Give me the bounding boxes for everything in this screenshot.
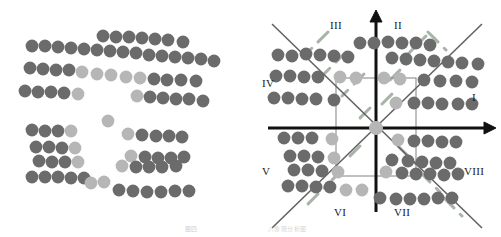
data-dot <box>144 91 157 104</box>
data-dot <box>450 136 463 149</box>
data-dot <box>161 74 174 87</box>
data-dot <box>72 88 85 101</box>
data-dot <box>284 70 297 83</box>
data-dot <box>134 72 147 85</box>
data-dot <box>396 167 409 180</box>
data-dot <box>183 185 196 198</box>
data-dot <box>143 49 156 62</box>
figure-canvas: IIIIIIIVVVIVIIVIII 图四 八象限分析图 <box>0 0 501 237</box>
data-dot <box>472 58 485 71</box>
data-dot <box>130 47 143 60</box>
data-dot <box>356 184 369 197</box>
data-dot <box>102 115 115 128</box>
data-dot <box>150 130 163 143</box>
data-dot <box>284 150 297 163</box>
data-dot <box>328 152 341 165</box>
data-dot <box>65 172 78 185</box>
data-dot <box>69 142 82 155</box>
data-dot <box>105 69 118 82</box>
data-dot <box>292 132 305 145</box>
data-dot <box>123 31 136 44</box>
data-dot <box>298 150 311 163</box>
data-dot <box>466 76 479 89</box>
data-dot <box>91 68 104 81</box>
data-dot <box>424 168 437 181</box>
data-dot <box>50 64 63 77</box>
data-dot <box>65 42 78 55</box>
data-dot <box>316 165 329 178</box>
data-dot <box>410 168 423 181</box>
y-axis-arrow <box>370 10 382 22</box>
data-dot <box>177 36 190 49</box>
data-dot <box>156 161 169 174</box>
data-dot <box>143 161 156 174</box>
data-dot <box>324 181 337 194</box>
data-dot <box>374 192 387 205</box>
data-dot <box>24 62 37 75</box>
data-dot <box>39 171 52 184</box>
data-dot <box>131 90 144 103</box>
data-dot <box>195 53 208 66</box>
data-dot <box>288 164 301 177</box>
data-dot <box>410 37 423 50</box>
data-dot <box>386 154 399 167</box>
data-dot <box>26 171 39 184</box>
data-dot <box>183 93 196 106</box>
data-dot <box>390 193 403 206</box>
x-axis-arrow <box>484 122 496 134</box>
data-dot <box>175 74 188 87</box>
data-dot <box>26 40 39 53</box>
data-dot <box>170 93 183 106</box>
data-dot <box>197 95 210 108</box>
octant-label-iii: III <box>330 20 342 31</box>
data-dot <box>156 50 169 63</box>
data-dot <box>282 92 295 105</box>
data-dot <box>76 66 89 79</box>
data-dot <box>436 98 449 111</box>
data-dot <box>416 156 429 169</box>
data-dot <box>328 50 341 63</box>
data-dot <box>334 71 347 84</box>
data-dot <box>306 132 319 145</box>
data-dot <box>436 136 449 149</box>
data-dot <box>30 141 43 154</box>
data-dot <box>386 52 399 65</box>
data-dot <box>378 72 391 85</box>
data-dot <box>110 31 123 44</box>
data-dot <box>272 49 285 62</box>
data-dot <box>117 46 130 59</box>
data-dot <box>127 185 140 198</box>
data-dot <box>120 71 133 84</box>
data-dot <box>368 37 381 50</box>
octant-label-ii: II <box>394 20 402 31</box>
data-dot <box>282 180 295 193</box>
data-dot <box>296 180 309 193</box>
data-dot <box>314 49 327 62</box>
data-dot <box>390 97 403 110</box>
data-dot <box>59 156 72 169</box>
data-dot <box>149 33 162 46</box>
data-dot <box>300 48 313 61</box>
data-dot <box>310 93 323 106</box>
data-dot <box>122 128 135 141</box>
data-dot <box>444 157 457 170</box>
data-dot <box>136 32 149 45</box>
octant-diagram-layer <box>250 0 501 237</box>
data-dot <box>392 134 405 147</box>
data-dot <box>328 94 341 107</box>
data-dot <box>428 55 441 68</box>
data-dot <box>350 72 363 85</box>
data-dot <box>19 85 32 98</box>
data-dot <box>354 37 367 50</box>
data-dot <box>169 185 182 198</box>
data-dot <box>442 56 455 69</box>
data-dot <box>446 192 459 205</box>
data-dot <box>408 135 421 148</box>
data-dot <box>170 160 183 173</box>
data-dot <box>342 51 355 64</box>
figure-caption-subtitle: 八象限分析图 <box>268 224 306 233</box>
data-dot <box>380 166 393 179</box>
data-dot <box>456 57 469 70</box>
data-dot <box>278 132 291 145</box>
data-dot <box>45 86 58 99</box>
